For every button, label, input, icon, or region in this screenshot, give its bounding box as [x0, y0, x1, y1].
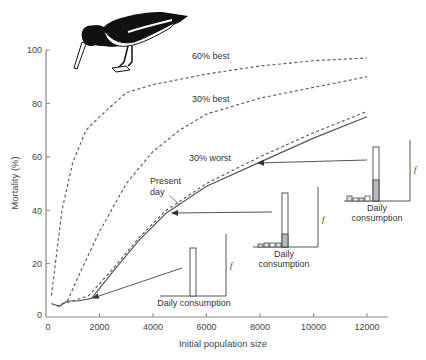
- x-axis-title: Initial population size: [179, 338, 267, 349]
- y-tick-60: 60: [32, 152, 42, 162]
- inset-low-density: f Daily consumption: [157, 234, 234, 308]
- y-tick-40: 40: [32, 206, 42, 216]
- mortality-chart: 100 80 60 40 20 0 Mortality (%) 0 2000 4…: [0, 0, 426, 360]
- x-tick-4000: 4000: [143, 322, 163, 332]
- curve-30-worst: [57, 111, 367, 306]
- x-tick-8000: 8000: [250, 322, 270, 332]
- y-tick-0: 0: [37, 310, 42, 320]
- curve-present-day: [51, 117, 367, 306]
- inset-high-density: f Daily consumption: [344, 140, 418, 223]
- label-30-worst: 30% worst: [189, 153, 232, 163]
- curve-30-best: [67, 77, 367, 301]
- x-tick-12000: 12000: [354, 322, 379, 332]
- label-60-best: 60% best: [192, 51, 230, 61]
- inset3-xlabel-line2: consumption: [351, 213, 402, 223]
- inset2-xlabel-line2: consumption: [258, 259, 309, 269]
- inset-mid-density: f Daily consumption: [253, 187, 326, 269]
- label-present-day-line2: day: [150, 187, 165, 197]
- x-tick-0: 0: [45, 322, 50, 332]
- arrow-inset2: [172, 212, 272, 213]
- y-tick-100: 100: [27, 45, 42, 55]
- inset1-xlabel: Daily consumption: [157, 298, 231, 308]
- arrow-inset1: [93, 268, 182, 298]
- x-axis: 0 2000 4000 6000 8000 10000 12000 Initia…: [45, 313, 388, 349]
- x-tick-10000: 10000: [301, 322, 326, 332]
- label-30-best: 30% best: [192, 94, 230, 104]
- inset1-f-label: f: [230, 260, 234, 270]
- label-present-day: Present: [150, 176, 182, 186]
- present-day-pointer: [170, 196, 180, 205]
- arrow-inset3: [258, 160, 367, 163]
- x-tick-6000: 6000: [196, 322, 216, 332]
- x-tick-2000: 2000: [89, 322, 109, 332]
- inset2-xlabel-line1: Daily: [274, 249, 295, 259]
- inset3-xlabel-line1: Daily: [367, 203, 388, 213]
- inset2-f-label: f: [322, 214, 326, 224]
- inset3-f-label: f: [414, 164, 418, 174]
- oystercatcher-bird-icon: [74, 12, 188, 72]
- y-axis-title: Mortality (%): [9, 156, 20, 209]
- y-tick-80: 80: [32, 99, 42, 109]
- y-axis: 100 80 60 40 20 0 Mortality (%): [9, 45, 50, 320]
- y-tick-20: 20: [32, 259, 42, 269]
